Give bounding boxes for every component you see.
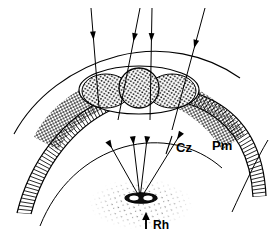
schematic-diagram: Cz Pm Rh: [0, 0, 278, 236]
rh-source: [125, 193, 157, 203]
lobe-center: [119, 68, 159, 108]
diagram-root: Cz Pm Rh: [0, 0, 278, 236]
label-rh: Rh: [153, 218, 169, 232]
label-cz: Cz: [176, 140, 192, 155]
label-pm: Pm: [212, 138, 232, 153]
